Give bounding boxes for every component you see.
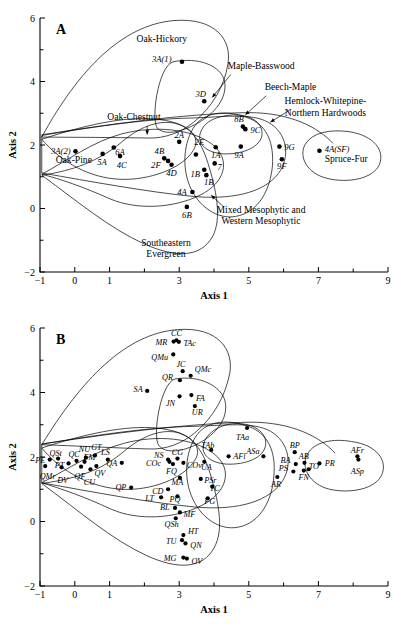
point-label: QSt [50, 449, 63, 458]
point-label: JC [176, 360, 186, 369]
data-point: PR [317, 459, 334, 468]
hull-mixed-western-b [187, 422, 275, 528]
point-marker [317, 148, 322, 153]
x-tick-label-5: 5 [246, 275, 251, 286]
point-label: TAa [236, 433, 249, 442]
point-label: 4C [117, 160, 127, 170]
data-point: 8B [234, 114, 245, 129]
point-label: 2E [195, 137, 205, 147]
data-point: 9F [277, 157, 287, 171]
data-point: 9G [277, 142, 295, 152]
data-point: 2A [174, 130, 184, 145]
data-point: COv [181, 461, 202, 470]
y-tick-label-4: 4 [30, 387, 35, 398]
point-marker [120, 461, 124, 465]
x-tick-label-3: 3 [177, 589, 182, 600]
annotation-label: Northern Hardwoods [285, 107, 367, 118]
point-label: TAb [201, 441, 214, 450]
x-tick-label-0: 0 [72, 589, 77, 600]
x-tick-label-5: 5 [246, 589, 251, 600]
point-label: PS [278, 464, 288, 473]
data-point: AFr [350, 446, 365, 459]
x-axis-title: Axis 1 [200, 604, 228, 615]
point-marker [181, 461, 185, 465]
point-marker [73, 149, 78, 154]
data-point: AB [298, 452, 309, 465]
point-label: OV [191, 557, 203, 566]
data-point: FQ [165, 462, 177, 476]
data-point: FG [203, 496, 215, 505]
data-point: 3A(1) [151, 54, 184, 64]
point-label: CG [172, 448, 183, 457]
x-tick-label-1: 1 [107, 589, 112, 600]
panel-letter-B: B [56, 332, 65, 347]
point-marker [66, 461, 70, 465]
point-marker [190, 190, 195, 195]
point-marker [212, 161, 217, 166]
x-tick-label--1: −1 [35, 275, 46, 286]
point-label: 9C [251, 125, 261, 135]
data-point: QC [68, 450, 80, 463]
panel-a: −1013579Axis 1−20246Axis 2AOak-HickoryMa… [0, 0, 396, 312]
plot-b: −1013579Axis 1−20246Axis 2BCCMRTAcQMuJCQ… [0, 300, 396, 626]
data-point: QN [183, 541, 202, 550]
data-point: UA [201, 460, 213, 472]
data-point: MR [155, 338, 176, 347]
annotation-label: Maple-Basswood [227, 60, 294, 71]
data-point: 1A [211, 145, 221, 160]
point-marker [261, 454, 265, 458]
annotation-arrowhead-5 [145, 130, 149, 134]
data-point: QP [115, 483, 133, 492]
x-tick-label-1: 1 [107, 275, 112, 286]
data-point: UR [192, 404, 203, 417]
annotation-label: Hemlock-Whitepine- [285, 95, 367, 106]
data-point: AFl [227, 452, 247, 461]
point-label: QN [190, 541, 202, 550]
point-marker [202, 99, 207, 104]
point-label: 1B [204, 177, 214, 187]
point-marker [277, 144, 282, 149]
point-label: 8B [234, 114, 244, 124]
data-point: MF [178, 510, 196, 519]
data-point: QMc [189, 365, 212, 378]
point-marker [180, 60, 185, 65]
panel-letter-A: A [56, 22, 67, 37]
x-tick-label-0: 0 [72, 275, 77, 286]
point-marker [100, 152, 105, 157]
point-marker [189, 374, 193, 378]
point-marker [43, 464, 47, 468]
data-point: JN [166, 394, 182, 408]
point-label: CU [84, 478, 96, 487]
annotation-label: Western Mesophytic [222, 215, 301, 226]
point-marker [94, 464, 98, 468]
data-point: ASp [350, 457, 364, 475]
point-marker [183, 541, 187, 545]
point-label: FQ [165, 467, 177, 476]
point-label: LS [100, 448, 110, 457]
data-point: MG [163, 554, 186, 563]
point-marker [185, 556, 189, 560]
point-marker [118, 154, 123, 159]
figure-ordination-plots: −1013579Axis 1−20246Axis 2AOak-HickoryMa… [0, 0, 396, 626]
point-label: MG [163, 554, 177, 563]
y-tick-label-6: 6 [30, 323, 35, 334]
point-label: TU [166, 537, 178, 546]
point-marker [293, 450, 297, 454]
point-marker [199, 477, 203, 481]
annotation-arrowhead-3 [270, 118, 275, 122]
point-marker [178, 378, 182, 382]
data-point: TO [307, 462, 320, 471]
data-point: SA [134, 385, 150, 394]
point-label: JN [166, 399, 176, 408]
hull-group [42, 20, 381, 253]
data-point: QMu [151, 352, 175, 362]
point-label: ASa [245, 447, 259, 456]
point-marker [227, 454, 231, 458]
hull-maple-basswood [155, 60, 225, 132]
data-point: TC [210, 484, 221, 493]
data-point: MA [171, 476, 185, 487]
point-label: FG [203, 497, 215, 506]
annotation-label: Beech-Maple [265, 81, 317, 92]
point-label: MA [171, 478, 185, 487]
x-tick-label-9: 9 [386, 589, 391, 600]
